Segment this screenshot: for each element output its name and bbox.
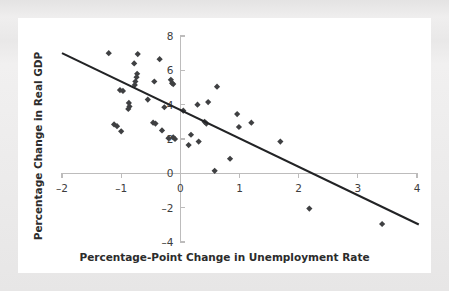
data-point-marker: [196, 138, 202, 144]
data-point-marker: [131, 60, 137, 66]
data-point-marker: [277, 138, 283, 144]
y-tick-label: 6: [167, 64, 174, 76]
x-tick-label: –2: [56, 182, 68, 194]
data-point-marker: [118, 128, 124, 134]
data-point-marker: [145, 96, 151, 102]
data-point-marker: [157, 56, 163, 62]
data-point-marker: [106, 50, 112, 56]
data-point-marker: [227, 156, 233, 162]
data-point-marker: [234, 111, 240, 117]
data-point-marker: [379, 221, 385, 227]
data-point-marker: [236, 124, 242, 130]
trend-line: [62, 53, 419, 224]
data-point-marker: [135, 51, 141, 57]
data-point-marker: [186, 142, 192, 148]
x-tick-label: 2: [295, 182, 302, 194]
y-axis-title: Percentage Change in Real GDP: [32, 51, 44, 240]
data-point-marker: [194, 102, 200, 108]
data-point-marker: [205, 99, 211, 105]
data-point-marker: [188, 132, 194, 138]
y-tick-label: –2: [161, 202, 173, 214]
y-tick-label: 8: [167, 30, 174, 42]
data-point-marker: [151, 78, 157, 84]
scatter-chart: –2–101234–4–202468 Percentage-Point Chan…: [18, 18, 431, 273]
x-tick-label: 4: [414, 182, 421, 194]
x-tick-label: 1: [236, 182, 243, 194]
figure-root: –2–101234–4–202468 Percentage-Point Chan…: [0, 0, 449, 291]
x-tick-label: –1: [115, 182, 127, 194]
trend-line-group: [62, 53, 419, 224]
data-points-group: [106, 50, 386, 227]
y-tick-label: –4: [161, 236, 173, 248]
data-point-marker: [159, 127, 165, 133]
x-tick-label: 0: [177, 182, 184, 194]
data-point-marker: [214, 84, 220, 90]
data-point-marker: [248, 120, 254, 126]
data-point-marker: [306, 205, 312, 211]
x-tick-label: 3: [355, 182, 362, 194]
x-axis-title: Percentage-Point Change in Unemployment …: [79, 251, 369, 263]
y-tick-label: 0: [167, 167, 174, 179]
plot-card: –2–101234–4–202468 Percentage-Point Chan…: [18, 18, 431, 273]
